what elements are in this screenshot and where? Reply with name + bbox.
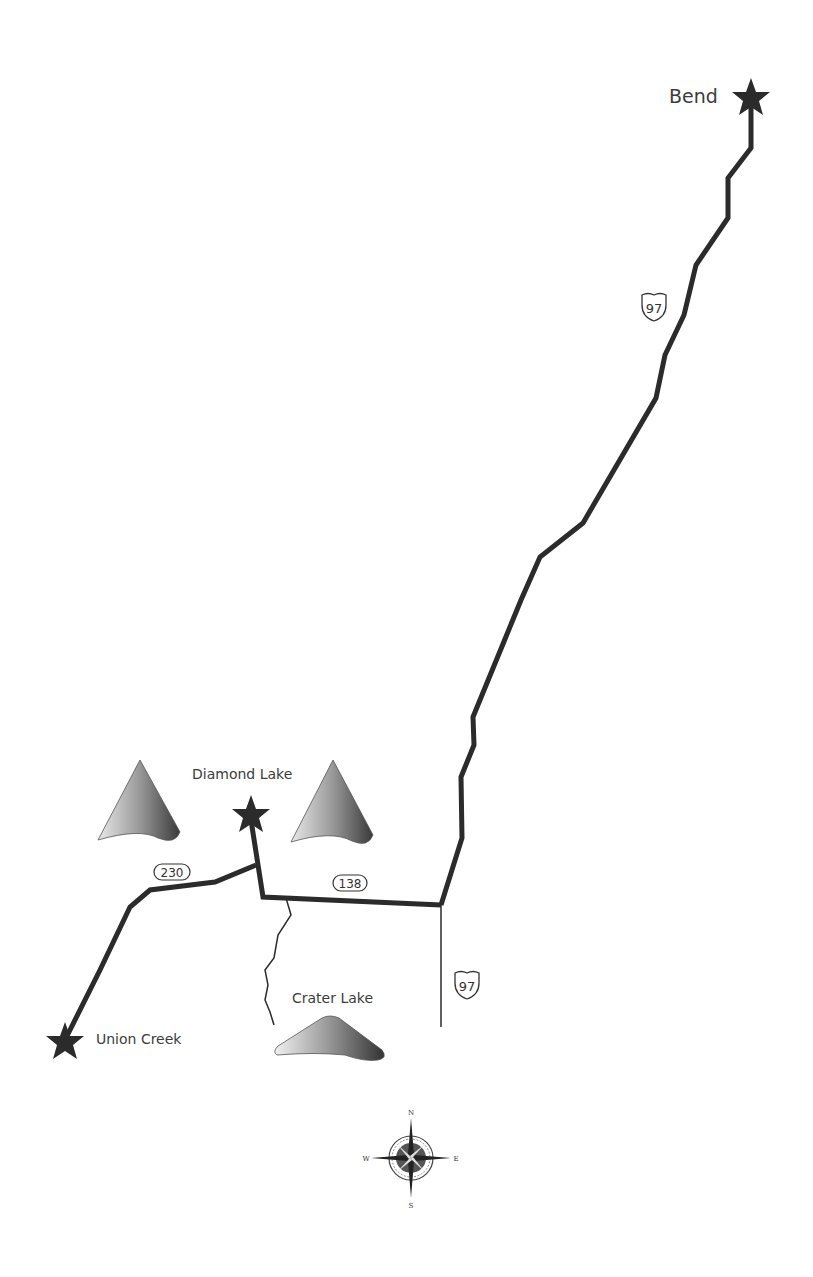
crater-lake-volcano-icon: [275, 1016, 385, 1060]
us-97-shield-icon-south: 97: [455, 972, 479, 1000]
us-97-shield-icon-north: 97: [642, 294, 666, 322]
place-label-crater-lake: Crater Lake: [292, 990, 373, 1006]
svg-text:E: E: [453, 1155, 458, 1163]
place-label-diamond-lake: Diamond Lake: [192, 766, 292, 782]
route-230-line: [65, 865, 256, 1040]
route-97-north-line: [441, 100, 751, 905]
crater-lake-road: [265, 898, 291, 1025]
place-label-bend: Bend: [669, 85, 718, 107]
compass-rose-icon: N S E W: [362, 1109, 458, 1210]
svg-text:N: N: [408, 1109, 414, 1117]
route-map: 97 97 138 230 N S E W: [0, 0, 813, 1277]
mountain-icon-right: [291, 760, 373, 843]
star-icon-union-creek: [46, 1022, 84, 1059]
svg-text:97: 97: [459, 979, 476, 994]
mountain-icon-left: [98, 760, 180, 840]
route-138-marker-icon: 138: [333, 875, 367, 891]
svg-text:230: 230: [161, 866, 184, 880]
route-230-marker-icon: 230: [154, 864, 190, 880]
svg-text:W: W: [362, 1155, 370, 1163]
place-label-union-creek: Union Creek: [96, 1031, 181, 1047]
svg-text:S: S: [409, 1202, 414, 1210]
svg-text:97: 97: [646, 301, 663, 316]
svg-text:138: 138: [339, 877, 362, 891]
